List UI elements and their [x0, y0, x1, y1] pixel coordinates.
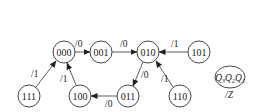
state-node-000: 000 [53, 41, 75, 63]
edge-label: /1 [161, 74, 169, 84]
edge-010-to-011: /0 [133, 62, 149, 86]
edge-label: /1 [60, 74, 68, 84]
state-label: 101 [192, 47, 207, 58]
state-node-100: 100 [69, 85, 91, 107]
edge-label: /0 [75, 39, 83, 49]
state-label: 110 [173, 91, 188, 102]
state-label: 001 [94, 47, 109, 58]
state-node-010: 010 [137, 41, 159, 63]
state-label: 100 [73, 91, 88, 102]
edge-label: /0 [120, 39, 128, 49]
state-label: 000 [57, 47, 72, 58]
edge-110-to-010: /1 [156, 61, 173, 87]
edge-label: /1 [31, 69, 39, 79]
state-node-101: 101 [188, 41, 210, 63]
legend-state-label: Q3Q2Q1 [215, 73, 245, 84]
legend-output-label: /Z [224, 90, 234, 100]
edge-011-to-100: /0 [91, 96, 117, 109]
state-node-111: 111 [18, 85, 40, 107]
state-diagram: /0 /0 /1 /0 /1 /0 /1 /1 000 001 010 [0, 0, 278, 112]
state-label: 011 [121, 91, 136, 102]
edge-label: /0 [141, 70, 149, 80]
edge-001-to-010: /0 [112, 39, 137, 52]
state-label: 111 [22, 91, 36, 102]
state-label: 010 [141, 47, 156, 58]
state-node-001: 001 [90, 41, 112, 63]
state-node-110: 110 [169, 85, 191, 107]
edge-000-to-001: /0 [75, 39, 90, 52]
edge-101-to-010: /1 [159, 39, 188, 52]
edge-100-to-000: /1 [60, 63, 76, 85]
edge-label: /0 [105, 99, 113, 109]
legend: Q3Q2Q1 /Z [215, 66, 245, 100]
edge-label: /1 [171, 39, 179, 49]
state-node-011: 011 [117, 85, 139, 107]
edge-111-to-000: /1 [31, 61, 56, 87]
